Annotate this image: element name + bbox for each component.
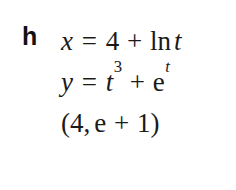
equation-y-relation: =	[82, 67, 97, 97]
equation-y-lhs: y	[61, 67, 73, 97]
point-coordinates: (4,e + 1)	[61, 103, 233, 144]
natural-log-function: ln	[150, 26, 171, 56]
equation-x-lhs: x	[61, 26, 73, 56]
equation-y-operator: +	[130, 67, 145, 97]
equation-y-exponent-three: 3	[114, 57, 122, 76]
equation-group: x = 4 + lnt y = t3 + et (4,e + 1)	[61, 21, 233, 144]
equation-y-exponent-t: t	[165, 57, 170, 76]
equation-y-base-t: t	[106, 67, 114, 97]
equation-x: x = 4 + lnt	[61, 21, 233, 62]
problem-item-label: h	[22, 24, 37, 49]
equation-y: y = t3 + et	[61, 62, 233, 103]
open-paren: (	[61, 108, 70, 138]
coordinate-separator: ,	[84, 108, 91, 138]
equation-x-parameter: t	[174, 26, 182, 56]
point-y-term-one: 1	[137, 108, 151, 138]
equation-x-constant: 4	[106, 26, 120, 56]
point-y-operator: +	[114, 108, 129, 138]
point-y-term-e: e	[94, 108, 106, 138]
equation-y-base-e: e	[153, 67, 165, 97]
close-paren: )	[150, 108, 159, 138]
point-x-value: 4	[70, 108, 84, 138]
equation-x-operator: +	[127, 26, 142, 56]
equation-x-relation: =	[82, 26, 97, 56]
problem-block: h x = 4 + lnt y = t3 + et (4,e + 1)	[0, 0, 236, 190]
